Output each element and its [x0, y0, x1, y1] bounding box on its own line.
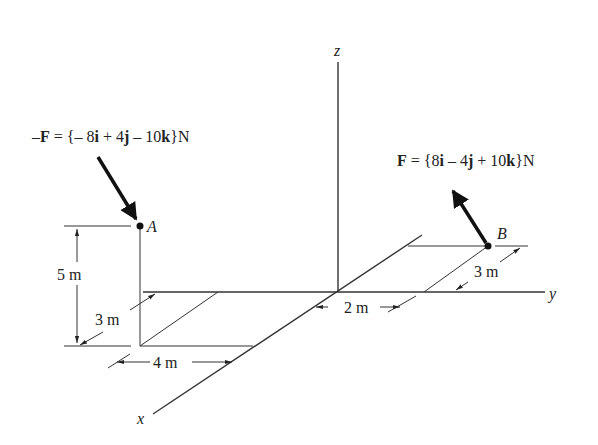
point-a-construction — [64, 226, 253, 368]
point-a — [137, 223, 144, 230]
dim-b-depth-label: 3 m — [474, 263, 499, 280]
dim-a-depth-label: 3 m — [95, 311, 120, 328]
point-b-label: B — [497, 225, 507, 242]
force-arrow — [453, 191, 486, 243]
point-a-label: A — [146, 218, 157, 235]
x-axis — [153, 235, 422, 414]
x-axis-label: x — [136, 410, 144, 427]
point-b — [485, 243, 492, 250]
point-b-construction — [388, 246, 528, 312]
neg-force-arrow — [98, 157, 136, 219]
dim-b-offset-y-label: 2 m — [344, 299, 369, 316]
y-axis-label: y — [547, 285, 557, 303]
z-axis-label: z — [333, 42, 341, 59]
dim-a-height-label: 5 m — [57, 266, 82, 283]
neg-force-label: –F = {– 8i + 4j – 10k}N — [31, 128, 190, 146]
force-diagram: z y x 5 m 3 m 4 m A –F = {– 8i + 4j – 1 — [0, 0, 598, 445]
force-label: F = {8i – 4j + 10k}N — [397, 152, 535, 170]
dim-a-width-label: 4 m — [153, 354, 178, 371]
